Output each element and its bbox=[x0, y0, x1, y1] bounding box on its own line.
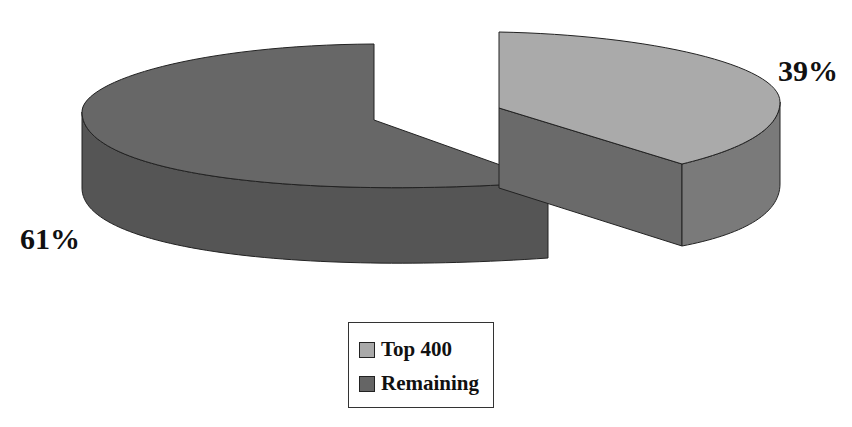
legend-item-remaining: Remaining bbox=[359, 371, 479, 396]
legend-item-top400: Top 400 bbox=[359, 337, 452, 362]
legend-swatch-top400 bbox=[359, 342, 375, 358]
legend-label: Top 400 bbox=[381, 337, 452, 362]
top400-percent-label: 39% bbox=[778, 54, 838, 88]
chart-legend: Top 400 Remaining bbox=[348, 322, 494, 408]
remaining-percent-label: 61% bbox=[20, 222, 80, 256]
legend-swatch-remaining bbox=[359, 376, 375, 392]
legend-label: Remaining bbox=[381, 371, 479, 396]
